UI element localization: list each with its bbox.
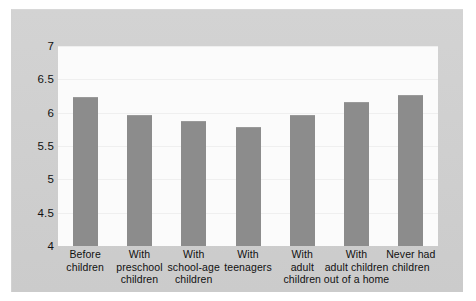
x-axis-category-label: Never hadchildren	[378, 248, 444, 273]
gridline	[58, 113, 438, 114]
y-axis-tick-label: 5.5	[14, 140, 54, 152]
gridline	[58, 46, 438, 47]
y-axis-tick-label: 7	[14, 40, 54, 52]
bar-chart-figure: 76.565.554.54 BeforechildrenWithpreschoo…	[11, 9, 463, 292]
bar	[344, 102, 369, 246]
y-axis-tick-label: 6	[14, 107, 54, 119]
x-axis-category-label-line: Never had	[378, 248, 444, 261]
y-axis-tick-label: 5	[14, 173, 54, 185]
gridline	[58, 79, 438, 80]
bar	[73, 97, 98, 246]
bar	[236, 127, 261, 246]
bar	[290, 115, 315, 246]
plot-area	[58, 46, 438, 246]
x-axis-category-label-line: children	[378, 261, 444, 274]
x-axis-category-label-line: out of a home	[324, 273, 390, 286]
x-axis-category-label-line: children	[161, 273, 227, 286]
y-axis-tick-label: 4.5	[14, 207, 54, 219]
bar	[181, 121, 206, 246]
y-axis-tick-label: 4	[14, 240, 54, 252]
bar	[127, 115, 152, 246]
y-axis-tick-label: 6.5	[14, 73, 54, 85]
bar	[398, 95, 423, 246]
x-axis-labels: BeforechildrenWithpreschoolchildrenWiths…	[58, 248, 438, 292]
y-axis: 76.565.554.54	[12, 46, 54, 246]
